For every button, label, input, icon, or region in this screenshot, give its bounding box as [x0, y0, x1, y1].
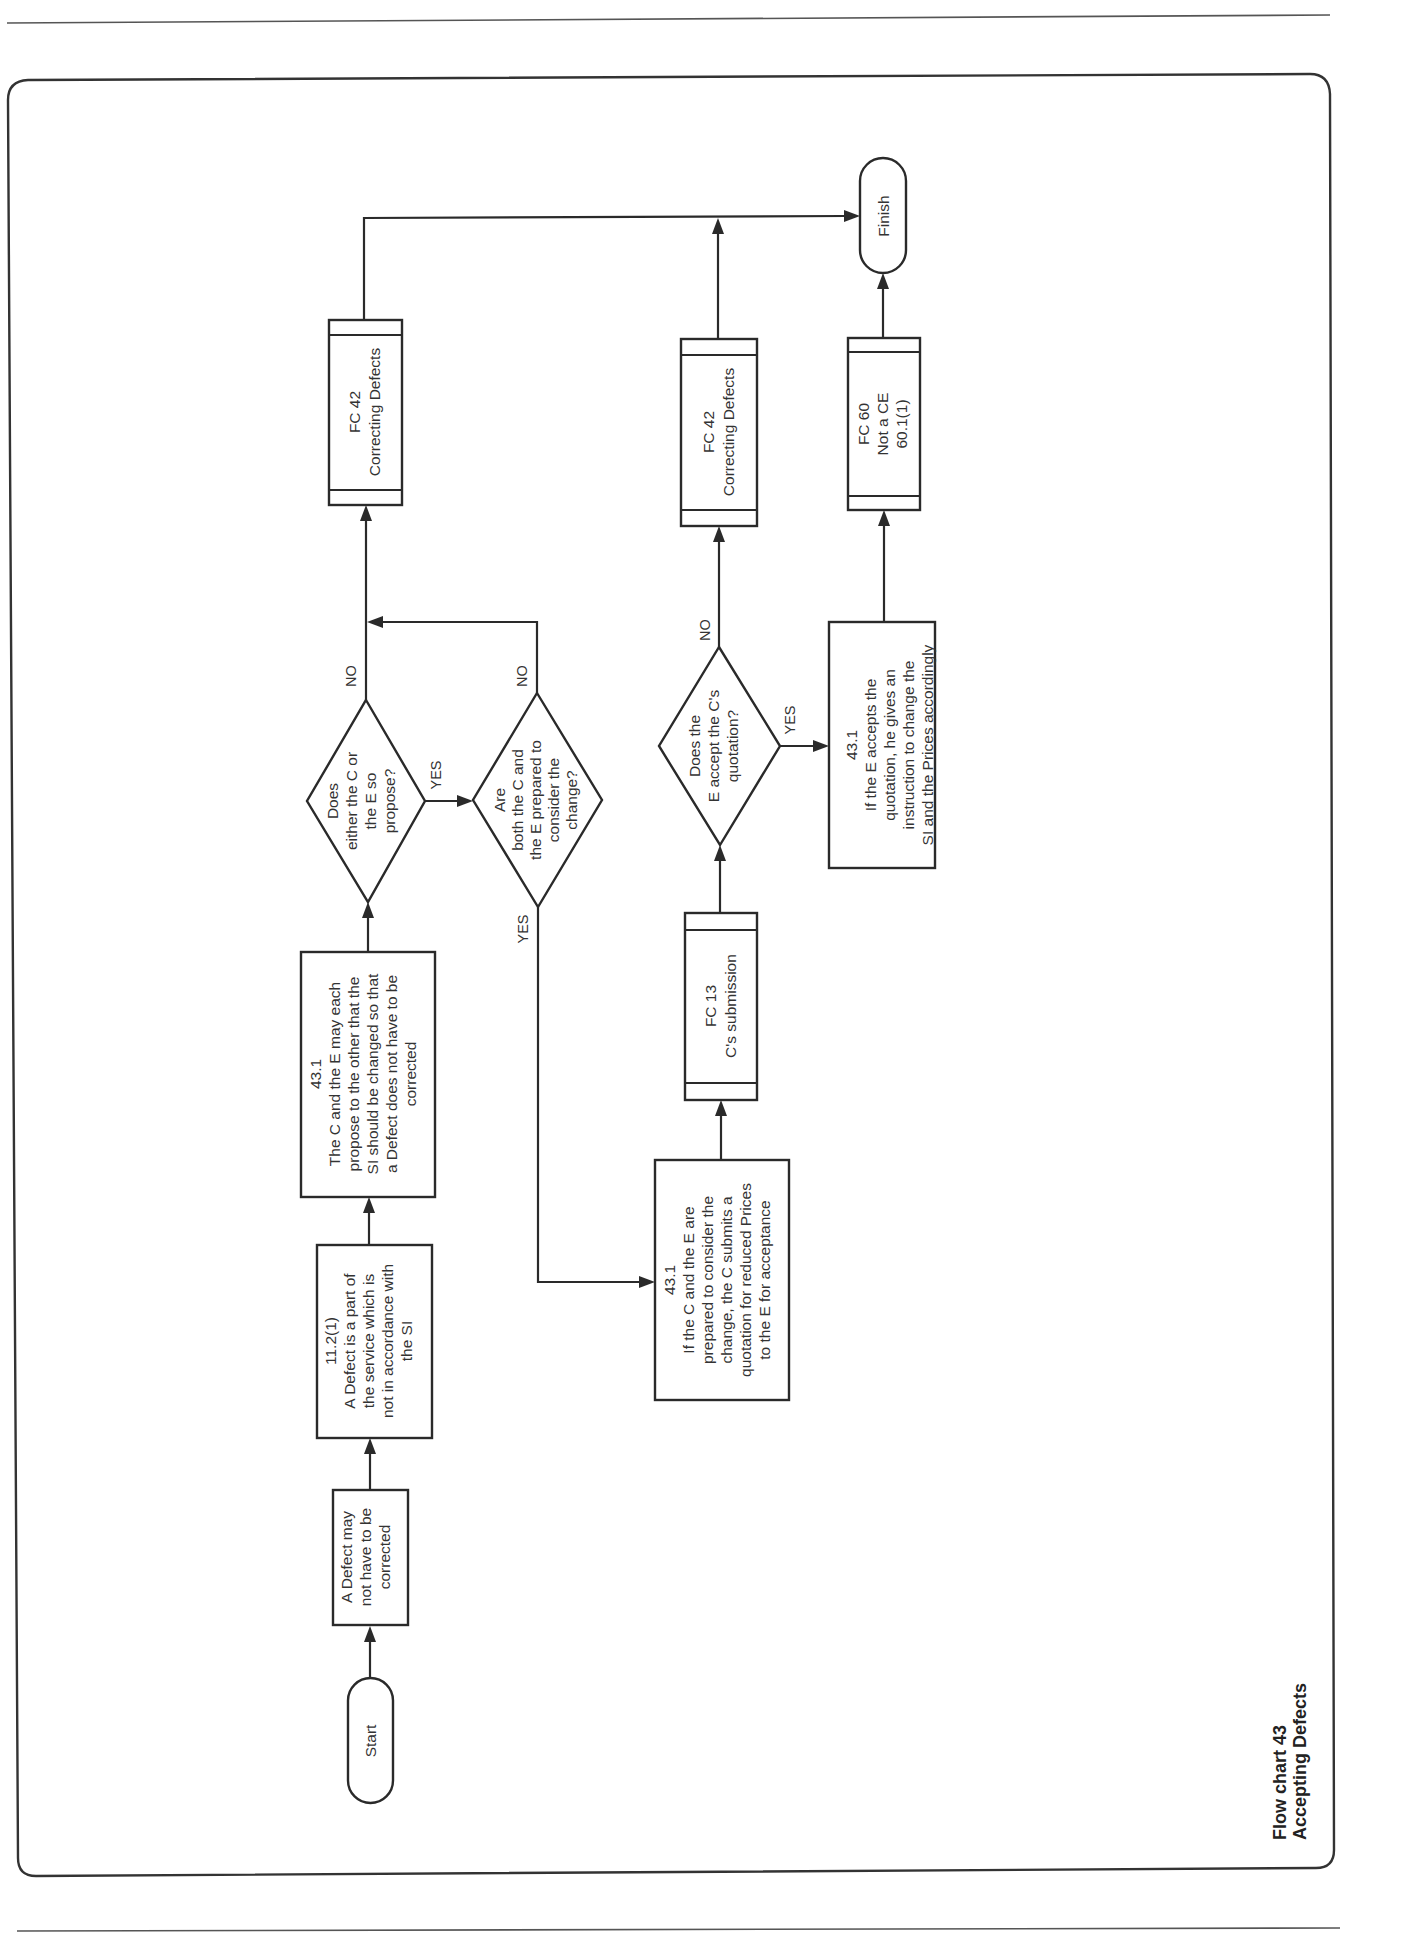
arrow-head-icon [714, 845, 726, 861]
node-finish[interactable]: Finish [860, 158, 906, 273]
node-text-line: both the C and [509, 749, 526, 851]
node-text-line: change? [563, 770, 580, 830]
node-text-line: quotation for reduced Prices [737, 1183, 754, 1377]
arrow-head-icon [639, 1276, 655, 1288]
arrow-head-icon [363, 1197, 375, 1213]
node-text-line: quotation? [724, 709, 741, 782]
node-text-line: If the E accepts the [862, 679, 879, 812]
node-text-line: 43.1 [307, 1059, 324, 1089]
arrow-head-icon [878, 510, 890, 526]
arrow-head-icon [364, 1438, 376, 1454]
node-text-line: either the C or [343, 752, 360, 850]
node-text-line: to the E for acceptance [756, 1200, 773, 1359]
start-label: Start [362, 1724, 379, 1757]
node-text-line: the SI [398, 1321, 415, 1362]
node-text-line: the E prepared to [527, 740, 544, 860]
node-text-line: propose? [381, 768, 398, 833]
arrow-head-icon [813, 740, 829, 752]
arrow-head-icon [360, 505, 372, 521]
node-defect-may[interactable]: A Defect may not have to be corrected [333, 1490, 408, 1625]
node-text-line: A Defect may [338, 1511, 355, 1603]
node-text-line: Are [491, 788, 508, 812]
footer-rule [17, 1928, 1340, 1931]
node-decision-prepared[interactable]: Are both the C and the E prepared to con… [473, 693, 602, 907]
edge-fc42a-to-finish [364, 216, 846, 320]
node-text-line: instruction to change the [900, 661, 917, 830]
node-clause-43-1-propose[interactable]: 43.1 The C and the E may each propose to… [301, 952, 435, 1197]
node-text-line: 43.1 [661, 1265, 678, 1295]
node-text-line: Not a CE [874, 393, 891, 456]
arrow-head-icon [367, 616, 383, 628]
diagram-frame [8, 74, 1334, 1876]
node-decision-propose[interactable]: Does either the C or the E so propose? [307, 700, 425, 902]
edge-label-yes: YES [515, 914, 531, 943]
edge-label-yes: YES [428, 760, 444, 789]
node-text-line: the service which is [360, 1274, 377, 1409]
node-text-line: FC 42 [700, 411, 717, 453]
edge-label-no: NO [514, 665, 530, 687]
arrow-head-icon [715, 1100, 727, 1116]
node-text-line: If the C and the E are [680, 1206, 697, 1353]
node-fc42-correcting-defects-2[interactable]: FC 42 Correcting Defects [681, 339, 757, 526]
node-text-line: 60.1(1) [893, 399, 910, 448]
finish-label: Finish [875, 195, 892, 236]
node-text-line: SI and the Prices accordingly [919, 644, 936, 845]
chart-title-line-1: Flow chart 43 [1270, 1725, 1290, 1840]
node-decision-accept[interactable]: Does the E accept the C's quotation? [659, 647, 780, 845]
node-fc42-correcting-defects[interactable]: FC 42 Correcting Defects [329, 320, 402, 505]
node-text-line: SI should be changed so that [364, 973, 381, 1174]
arrow-head-icon [364, 1626, 376, 1642]
node-text-line: Correcting Defects [366, 348, 383, 477]
node-text-line: corrected [376, 1525, 393, 1590]
arrow-head-icon [844, 210, 860, 222]
node-text-line: Does the [686, 715, 703, 777]
node-text-line: FC 42 [346, 391, 363, 433]
edge-label-yes: YES [782, 705, 798, 734]
node-text-line: consider the [545, 758, 562, 842]
node-text-line: Does [324, 783, 341, 819]
edge-decision-2-yes [538, 907, 641, 1282]
edge-label-no: NO [697, 619, 713, 641]
chart-title-line-2: Accepting Defects [1290, 1683, 1310, 1840]
node-text-line: FC 60 [855, 403, 872, 446]
node-text-line: not in accordance with [379, 1264, 396, 1418]
node-fc60-not-a-ce[interactable]: FC 60 Not a CE 60.1(1) [848, 338, 920, 510]
arrow-head-icon [362, 902, 374, 918]
node-text-line: 11.2(1) [322, 1317, 339, 1365]
node-text-line: E accept the C's [705, 690, 722, 803]
node-clause-11-2-1[interactable]: 11.2(1) A Defect is a part of the servic… [317, 1245, 432, 1438]
node-text-line: corrected [402, 1042, 419, 1107]
node-fc13-c-submission[interactable]: FC 13 C's submission [685, 913, 757, 1100]
arrow-head-icon [877, 273, 889, 289]
node-text-line: C's submission [722, 954, 739, 1058]
node-clause-43-1-quotation[interactable]: 43.1 If the C and the E are prepared to … [655, 1160, 789, 1400]
node-text-line: FC 13 [702, 985, 719, 1027]
node-text-line: A Defect is a part of [341, 1273, 358, 1409]
edge-label-no: NO [343, 665, 359, 687]
node-text-line: 43.1 [843, 730, 860, 760]
header-rule [7, 15, 1330, 23]
arrow-head-icon [713, 526, 725, 542]
node-text-line: quotation, he gives an [881, 669, 898, 821]
node-text-line: change, the C submits a [718, 1196, 735, 1364]
node-text-line: prepared to consider the [699, 1196, 716, 1364]
arrow-head-icon [712, 218, 724, 234]
node-text-line: The C and the E may each [326, 982, 343, 1166]
arrow-head-icon [457, 795, 473, 807]
node-text-line: a Defect does not have to be [383, 975, 400, 1173]
node-start[interactable]: Start [348, 1678, 393, 1803]
node-text-line: propose to the other that the [345, 977, 362, 1172]
node-text-line: the E so [362, 773, 379, 830]
flowchart-canvas: Start A Defect may not have to be correc… [0, 0, 1409, 1955]
node-clause-43-1-accept[interactable]: 43.1 If the E accepts the quotation, he … [829, 622, 936, 868]
node-text-line: Correcting Defects [720, 368, 737, 497]
node-text-line: not have to be [357, 1508, 374, 1606]
